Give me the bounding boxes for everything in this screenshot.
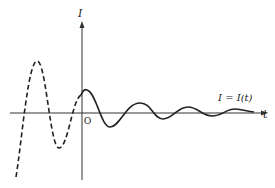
origin-label: O	[84, 115, 91, 126]
i-axis-arrow-icon	[80, 21, 85, 28]
i-axis	[80, 21, 85, 180]
t-axis-label: t	[263, 108, 268, 121]
curve-label: I = I(t)	[217, 92, 253, 103]
dashed-oscillation-curve	[16, 61, 81, 177]
damped-oscillation-diagram: I t O I = I(t)	[0, 0, 275, 188]
i-axis-label: I	[77, 7, 83, 20]
